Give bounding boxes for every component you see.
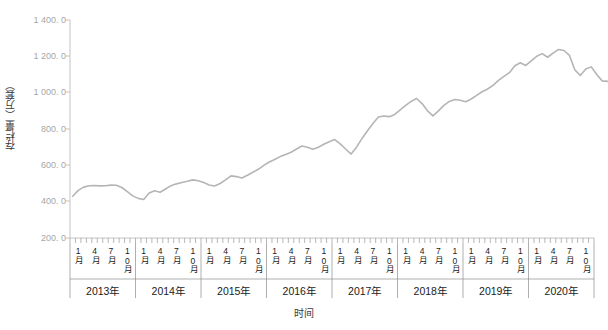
y-axis-major-ticks <box>65 20 70 238</box>
x-axis-year-label: 2020年 <box>529 283 595 298</box>
chart-container: 存栏量（万套） 1 400. 0 1 200. 0 1 000. 0 800. … <box>0 0 608 330</box>
x-axis-month-label: 7月 <box>106 246 115 264</box>
x-axis-month-label: 10月 <box>450 246 459 274</box>
x-axis-year-label: 2019年 <box>463 283 529 298</box>
x-axis-title: 时间 <box>0 305 608 320</box>
x-axis-month-label: 4月 <box>221 246 230 264</box>
x-axis-month-label: 1月 <box>270 246 279 264</box>
x-axis-month-label: 1月 <box>401 246 410 264</box>
x-axis-month-label: 4月 <box>417 246 426 264</box>
x-axis-month-label: 1月 <box>73 246 82 264</box>
x-axis-month-label: 4月 <box>155 246 164 264</box>
x-axis-month-label: 1月 <box>204 246 213 264</box>
plot-area <box>0 0 608 330</box>
data-series-line <box>73 49 608 199</box>
x-axis-month-label: 10月 <box>122 246 131 274</box>
x-axis-month-label: 4月 <box>548 246 557 264</box>
x-axis-month-label: 1月 <box>335 246 344 264</box>
x-axis-month-label: 4月 <box>483 246 492 264</box>
x-axis-month-label: 1月 <box>466 246 475 264</box>
x-axis-month-ticks <box>70 238 594 243</box>
x-axis-year-label: 2014年 <box>136 283 202 298</box>
x-axis-month-label: 4月 <box>286 246 295 264</box>
x-axis-month-label: 1月 <box>532 246 541 264</box>
x-axis-month-label: 7月 <box>433 246 442 264</box>
x-axis-month-label: 10月 <box>515 246 524 274</box>
x-axis-month-label: 7月 <box>171 246 180 264</box>
x-axis-month-label: 10月 <box>384 246 393 274</box>
x-axis-year-label: 2017年 <box>332 283 398 298</box>
x-axis-month-label: 10月 <box>253 246 262 274</box>
x-axis-year-label: 2015年 <box>201 283 267 298</box>
x-axis-month-label: 7月 <box>302 246 311 264</box>
axis-lines <box>70 20 594 238</box>
x-axis-month-label: 7月 <box>368 246 377 264</box>
x-axis-year-label: 2018年 <box>398 283 464 298</box>
x-axis-month-label: 7月 <box>237 246 246 264</box>
x-axis-month-label: 1月 <box>139 246 148 264</box>
x-axis-month-label: 7月 <box>499 246 508 264</box>
x-axis-month-label: 10月 <box>188 246 197 274</box>
x-axis-year-label: 2013年 <box>70 283 136 298</box>
x-axis-month-label: 4月 <box>352 246 361 264</box>
x-axis-month-label: 10月 <box>319 246 328 274</box>
x-axis-year-label: 2016年 <box>267 283 333 298</box>
x-axis-month-label: 10月 <box>581 246 590 274</box>
x-axis-month-label: 4月 <box>90 246 99 264</box>
x-axis-month-label: 7月 <box>564 246 573 264</box>
